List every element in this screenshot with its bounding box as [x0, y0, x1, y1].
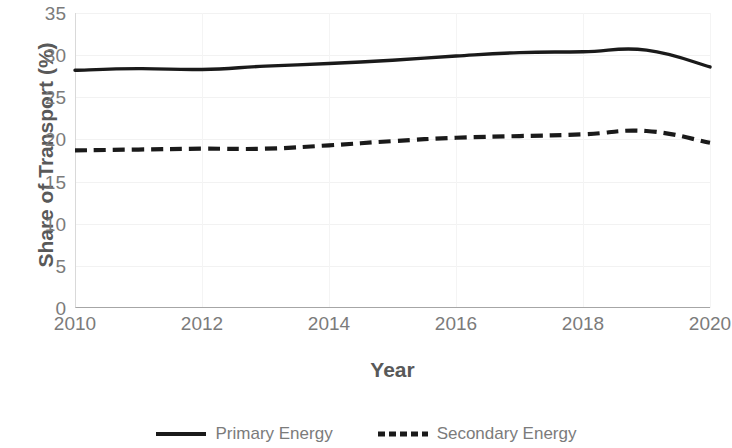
y-tick-label: 30	[10, 46, 66, 65]
x-tick-label: 2016	[435, 313, 477, 336]
y-tick-label: 35	[10, 4, 66, 23]
line-chart: Share of Transport (%) 35302520151050 20…	[0, 0, 732, 448]
solid-line-icon	[155, 427, 207, 441]
y-tick-label: 20	[10, 130, 66, 149]
legend-entry[interactable]: Primary Energy	[155, 424, 332, 444]
y-tick-label: 15	[10, 172, 66, 191]
x-tick-label: 2012	[181, 313, 223, 336]
legend-label: Primary Energy	[215, 424, 332, 444]
x-tick-label: 2014	[308, 313, 350, 336]
plot-area	[75, 13, 710, 308]
legend-label: Secondary Energy	[437, 424, 577, 444]
series-lines	[75, 13, 710, 308]
y-axis-tick-labels: 35302520151050	[10, 0, 66, 448]
chart-legend: Primary EnergySecondary Energy	[0, 424, 732, 444]
y-tick-label: 10	[10, 214, 66, 233]
x-axis-tick-labels: 201020122014201620182020	[75, 313, 710, 343]
x-axis-title: Year	[75, 358, 710, 382]
dashed-line-icon	[377, 427, 429, 441]
y-tick-label: 25	[10, 88, 66, 107]
x-tick-label: 2010	[54, 313, 96, 336]
y-tick-label: 5	[10, 256, 66, 275]
legend-entry[interactable]: Secondary Energy	[377, 424, 577, 444]
series-line-1	[75, 131, 710, 151]
gridline-vertical	[710, 13, 711, 308]
x-tick-label: 2020	[689, 313, 731, 336]
series-line-0	[75, 49, 710, 70]
x-tick-label: 2018	[562, 313, 604, 336]
